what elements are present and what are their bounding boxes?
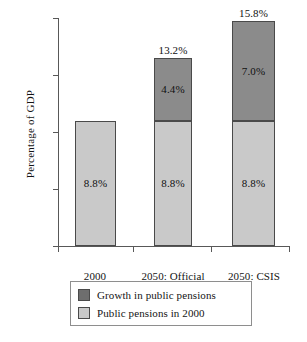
bar-segment-growth-in-public-pensions[interactable]: 4.4% — [154, 58, 192, 121]
legend-item-label: Growth in public pensions — [97, 289, 216, 301]
legend-swatch-icon — [78, 289, 90, 301]
legend-item-growth-in-public-pensions[interactable]: Growth in public pensions — [78, 286, 251, 304]
bar-segment-public-pensions-2000[interactable]: 8.8% — [232, 121, 275, 246]
legend: Growth in public pensions Public pension… — [70, 281, 252, 326]
bar-segment-label: 8.8% — [161, 177, 184, 189]
y-tick-8 — [53, 132, 58, 133]
bar-total-label: 15.8% — [239, 7, 268, 19]
x-tick-3 — [289, 246, 290, 252]
y-axis-title: Percentage of GDP — [24, 54, 36, 214]
bar-segment-label: 8.8% — [84, 177, 107, 189]
bar-chart: Percentage of GDP 0 4 8 12 16 8.8% 8 — [0, 0, 307, 342]
legend-swatch-icon — [78, 307, 90, 319]
legend-item-public-pensions-in-2000[interactable]: Public pensions in 2000 — [78, 304, 251, 322]
bar-segment-public-pensions-2000[interactable]: 8.8% — [75, 121, 116, 246]
y-tick-12 — [53, 75, 58, 76]
y-axis-line — [58, 18, 59, 246]
bar-segment-label: 8.8% — [242, 177, 265, 189]
y-tick-16 — [53, 18, 58, 19]
bar-group-2050-csis[interactable]: 8.8% 7.0% 15.8% — [232, 18, 275, 246]
plot-area: 0 4 8 12 16 8.8% 8.8% 4.4% 13.2% — [58, 18, 290, 246]
x-tick-0 — [58, 246, 59, 252]
x-tick-1 — [133, 246, 134, 252]
x-tick-2 — [211, 246, 212, 252]
y-tick-4 — [53, 189, 58, 190]
bar-segment-growth-in-public-pensions[interactable]: 7.0% — [232, 21, 275, 121]
bar-segment-label: 7.0% — [242, 65, 265, 77]
x-axis-line — [58, 246, 290, 247]
bar-group-2000[interactable]: 8.8% — [75, 18, 116, 246]
bar-total-label: 13.2% — [159, 44, 188, 56]
bar-segment-label: 4.4% — [161, 83, 184, 95]
legend-item-label: Public pensions in 2000 — [97, 307, 205, 319]
bar-group-2050-official[interactable]: 8.8% 4.4% 13.2% — [154, 18, 192, 246]
bar-segment-public-pensions-2000[interactable]: 8.8% — [154, 121, 192, 246]
